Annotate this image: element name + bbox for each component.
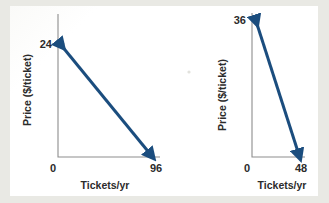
chart-left-origin-label: 0 [50, 162, 56, 174]
paper-speck [187, 70, 190, 73]
chart-right-y-top-label: 36 [234, 14, 246, 26]
chart-left-y-top-label: 24 [40, 38, 53, 50]
chart-right: 36 0 48 Price ($/ticket) Tickets/yr [216, 13, 307, 191]
chart-left: 24 0 96 Price ($/ticket) Tickets/yr [21, 14, 162, 191]
charts-svg: 24 0 96 Price ($/ticket) Tickets/yr 36 0… [0, 0, 329, 203]
chart-right-origin-label: 0 [244, 162, 250, 174]
chart-left-y-axis-title: Price ($/ticket) [21, 54, 33, 126]
chart-right-demand-curve [256, 21, 299, 155]
chart-left-x-end-label: 96 [150, 162, 162, 174]
chart-right-x-end-label: 48 [295, 162, 307, 174]
chart-left-axes [58, 14, 160, 157]
chart-right-x-axis-title: Tickets/yr [258, 179, 307, 191]
chart-left-x-axis-title: Tickets/yr [81, 179, 130, 191]
chart-right-y-axis-title: Price ($/ticket) [216, 59, 228, 131]
chart-left-demand-curve [61, 45, 151, 155]
figure-container: 24 0 96 Price ($/ticket) Tickets/yr 36 0… [0, 0, 329, 203]
